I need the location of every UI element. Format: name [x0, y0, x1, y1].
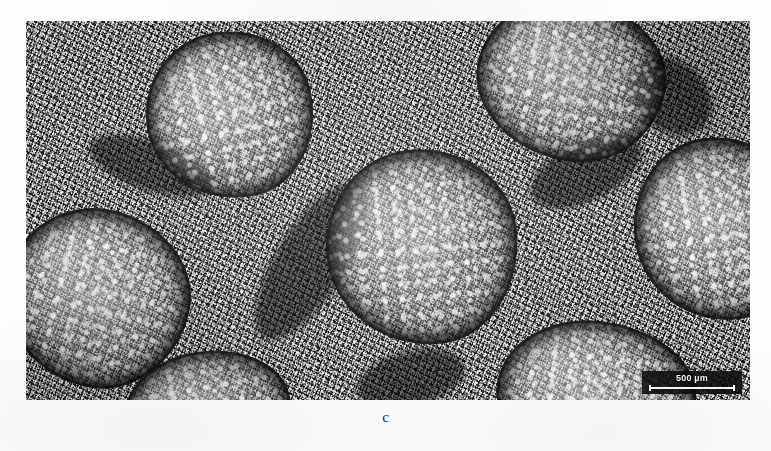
- scale-bar: 500 µm: [642, 371, 742, 394]
- tissue-bundle: [318, 141, 526, 353]
- scale-bar-label: 500 µm: [646, 373, 738, 384]
- panel-caption: c: [0, 408, 771, 426]
- bundle-halo: [318, 141, 526, 353]
- micrograph-image: 500 µm: [26, 21, 750, 400]
- scale-bar-rule: [646, 385, 738, 391]
